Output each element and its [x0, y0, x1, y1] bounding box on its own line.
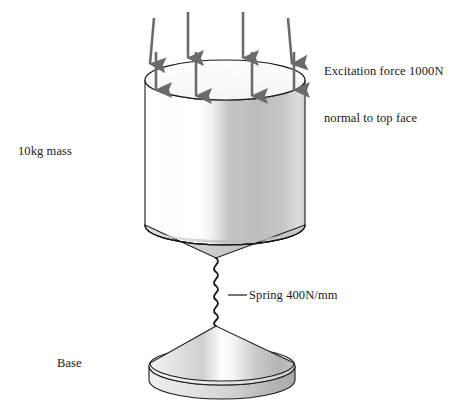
- base-cone: [150, 326, 294, 381]
- spring-label: Spring 400N/mm: [249, 288, 338, 304]
- force-arrow-back-1: [150, 18, 154, 64]
- mass-body: [145, 60, 305, 258]
- base-assembly: [149, 326, 295, 399]
- cylinder-side-wall: [145, 80, 305, 245]
- force-arrow-back-4: [288, 18, 292, 64]
- excitation-force-label: Excitation force 1000N normal to top fac…: [324, 33, 444, 157]
- spring-coil: [214, 258, 218, 326]
- excitation-force-label-line2: normal to top face: [324, 111, 444, 127]
- cylinder-top-face: [145, 60, 305, 100]
- base-label: Base: [57, 356, 82, 372]
- mass-label: 10kg mass: [18, 144, 72, 160]
- mass-spring-diagram: Excitation force 1000N normal to top fac…: [0, 0, 471, 414]
- excitation-force-label-line1: Excitation force 1000N: [324, 64, 444, 80]
